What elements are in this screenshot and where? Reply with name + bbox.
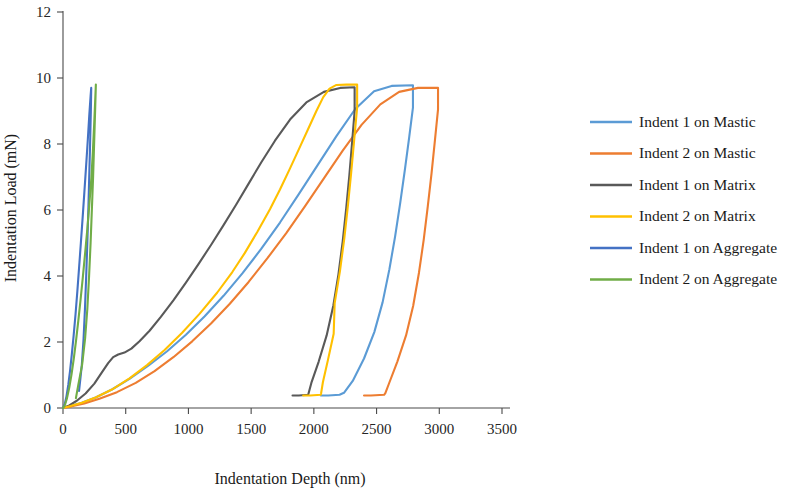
y-tick-label: 8 [44,136,52,152]
y-tick-label: 6 [44,202,52,218]
y-tick-label: 2 [44,334,52,350]
legend-label-4: Indent 1 on Aggregate [639,239,777,256]
x-tick-label: 1500 [236,421,266,437]
series-line-4 [63,88,91,408]
x-axis-tick-group: 0500100015002000250030003500 [59,408,517,437]
legend-label-0: Indent 1 on Mastic [639,113,756,130]
x-tick-label: 2500 [362,421,392,437]
legend-label-2: Indent 1 on Matrix [639,176,756,193]
x-tick-label: 1000 [173,421,203,437]
chart-legend: Indent 1 on MasticIndent 2 on MasticInde… [590,113,777,288]
legend-label-3: Indent 2 on Matrix [639,207,756,224]
series-line-1 [63,88,438,408]
series-group [63,85,438,408]
indentation-load-depth-chart: 024681012 0500100015002000250030003500 I… [0,0,809,495]
x-tick-label: 2000 [299,421,329,437]
x-tick-label: 3000 [424,421,454,437]
y-axis-title: Indentation Load (mN) [2,134,20,282]
series-line-2 [63,87,355,408]
series-line-0 [63,85,413,408]
chart-svg: 024681012 0500100015002000250030003500 I… [0,0,809,495]
legend-label-1: Indent 2 on Mastic [639,144,756,161]
x-tick-label: 3500 [487,421,517,437]
y-tick-label: 0 [44,400,52,416]
y-tick-label: 4 [44,268,52,284]
x-tick-label: 500 [114,421,137,437]
y-tick-label: 10 [36,70,51,86]
y-axis-tick-group: 024681012 [36,4,63,416]
y-tick-label: 12 [36,4,51,20]
x-tick-label: 0 [59,421,67,437]
x-axis-title: Indentation Depth (nm) [214,470,365,488]
legend-label-5: Indent 2 on Aggregate [639,270,777,287]
